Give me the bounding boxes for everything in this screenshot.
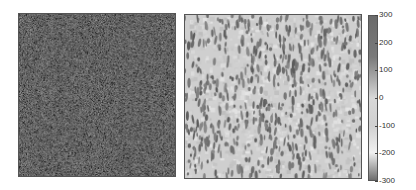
colorbar-tick-mark bbox=[375, 98, 378, 99]
colorbar-tick-label: -300 bbox=[379, 177, 395, 185]
colorbar-tick-label: 100 bbox=[379, 66, 392, 74]
colorbar-tick-label: 200 bbox=[379, 39, 392, 47]
colorbar-tick-mark bbox=[375, 43, 378, 44]
colorbar-tick-mark bbox=[375, 153, 378, 154]
heatmap-left bbox=[18, 13, 176, 177]
colorbar-tick-mark bbox=[375, 70, 378, 71]
heatmap-right-canvas bbox=[185, 15, 361, 178]
colorbar-tick-mark bbox=[375, 181, 378, 182]
heatmap-right bbox=[184, 14, 362, 179]
colorbar-tick-label: 300 bbox=[379, 11, 392, 19]
heatmap-left-canvas bbox=[19, 14, 175, 176]
colorbar-tick-label: 0 bbox=[379, 94, 383, 102]
colorbar-tick-label: -100 bbox=[379, 122, 395, 130]
colorbar-tick-label: -200 bbox=[379, 149, 395, 157]
colorbar-tick-mark bbox=[375, 15, 378, 16]
colorbar-tick-mark bbox=[375, 126, 378, 127]
